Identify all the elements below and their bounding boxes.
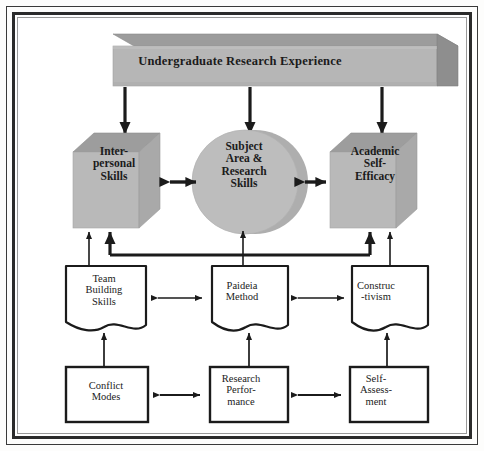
node-team-building-skills[interactable]	[66, 266, 146, 330]
node-academic-self-efficacy[interactable]	[330, 133, 417, 228]
diagram-shapes	[0, 0, 484, 451]
node-constructivism[interactable]	[352, 266, 428, 330]
node-subject-area-research-skills[interactable]	[192, 130, 308, 234]
bus-paideia-to-outcome-cubes	[110, 232, 370, 255]
node-interpersonal-skills[interactable]	[73, 133, 160, 228]
node-research-performance[interactable]	[210, 367, 288, 422]
node-undergraduate-research-experience[interactable]	[113, 34, 458, 86]
diagram-canvas: Undergraduate Research Experience Inter-…	[0, 0, 484, 451]
node-paideia-method[interactable]	[212, 266, 288, 330]
node-self-assessment[interactable]	[350, 367, 428, 422]
node-conflict-modes[interactable]	[66, 367, 148, 422]
